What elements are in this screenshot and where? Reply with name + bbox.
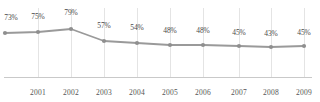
data-point-value-label: 48% (163, 26, 176, 35)
data-point-marker[interactable] (102, 39, 106, 43)
data-point-marker[interactable] (201, 43, 205, 47)
x-axis-tick-label: 2006 (195, 88, 211, 97)
x-axis-tick-label: 2005 (162, 88, 178, 97)
data-point-marker[interactable] (69, 27, 73, 31)
data-point-marker[interactable] (36, 30, 40, 34)
data-point-marker[interactable] (3, 31, 7, 35)
x-axis-tick-label: 2009 (296, 88, 312, 97)
series-path (5, 29, 304, 47)
data-point-value-label: 45% (232, 28, 245, 37)
x-axis-tick-label: 2001 (30, 88, 46, 97)
x-axis-tick-label: 2008 (263, 88, 279, 97)
data-point-value-label: 54% (130, 23, 143, 32)
data-point-value-label: 43% (264, 29, 277, 38)
x-axis-tick-label: 2007 (231, 88, 247, 97)
x-axis-tick-label: 2003 (96, 88, 112, 97)
data-point-value-label: 45% (297, 28, 310, 37)
plot-area: 73%75%79%57%54%48%48%45%43%45% (0, 0, 320, 80)
series-line (0, 0, 320, 80)
data-point-marker[interactable] (302, 44, 306, 48)
x-axis-labels: 200120022003200420052006200720082009 (0, 80, 320, 102)
data-point-marker[interactable] (135, 41, 139, 45)
data-point-marker[interactable] (237, 44, 241, 48)
data-point-value-label: 73% (4, 13, 17, 22)
data-point-value-label: 75% (31, 12, 44, 21)
line-chart: 73%75%79%57%54%48%48%45%43%45% 200120022… (0, 0, 320, 102)
data-point-value-label: 79% (64, 8, 77, 17)
data-point-value-label: 48% (196, 26, 209, 35)
x-axis-tick-label: 2004 (129, 88, 145, 97)
data-point-value-label: 57% (97, 21, 110, 30)
x-axis-tick-label: 2002 (63, 88, 79, 97)
data-point-marker[interactable] (269, 45, 273, 49)
data-point-marker[interactable] (168, 43, 172, 47)
